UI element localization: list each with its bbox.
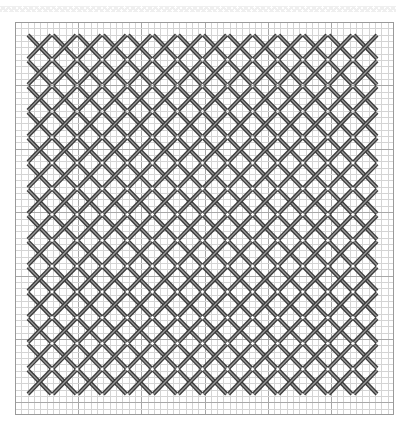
cross-stitch-icon <box>254 164 277 188</box>
cross-stitch-icon <box>354 267 377 291</box>
cross-stitch-icon <box>329 267 352 291</box>
cross-stitch-icon <box>304 61 327 85</box>
cross-stitch-icon <box>354 319 377 343</box>
cross-stitch-icon <box>128 293 151 317</box>
cross-stitch-icon <box>329 293 352 317</box>
cross-stitch-icon <box>229 61 252 85</box>
cross-stitch-icon <box>229 35 252 59</box>
cross-stitch-icon <box>153 164 176 188</box>
cross-stitch-icon <box>304 267 327 291</box>
cross-stitch-icon <box>229 138 252 162</box>
cross-stitch-icon <box>229 112 252 136</box>
cross-stitch-icon <box>329 138 352 162</box>
cross-stitch-icon <box>304 138 327 162</box>
cross-stitch-icon <box>128 61 151 85</box>
cross-stitch-icon <box>128 112 151 136</box>
cross-stitch-icon <box>304 35 327 59</box>
cross-stitch-icon <box>254 61 277 85</box>
cross-stitch-icon <box>329 35 352 59</box>
cross-stitch-icon <box>153 35 176 59</box>
stitches <box>28 35 377 394</box>
cross-stitch-icon <box>229 164 252 188</box>
cross-stitch-icon <box>153 319 176 343</box>
cross-stitch-icon <box>229 319 252 343</box>
cross-stitch-icon <box>279 164 302 188</box>
cross-stitch-icon <box>279 35 302 59</box>
cross-stitch-icon <box>329 319 352 343</box>
cross-stitch-icon <box>354 138 377 162</box>
cross-stitch-icon <box>304 293 327 317</box>
cross-stitch-icon <box>254 138 277 162</box>
torn-paper-edge <box>0 6 396 12</box>
cross-stitch-icon <box>279 61 302 85</box>
cross-stitch-icon <box>304 319 327 343</box>
cross-stitch-icon <box>153 61 176 85</box>
cross-stitch-icon <box>279 112 302 136</box>
cross-stitch-icon <box>254 112 277 136</box>
cross-stitch-icon <box>279 293 302 317</box>
cross-stitch-icon <box>128 164 151 188</box>
cross-stitch-icon <box>279 138 302 162</box>
cross-stitch-icon <box>329 61 352 85</box>
cross-stitch-icon <box>128 35 151 59</box>
cross-stitch-icon <box>153 138 176 162</box>
cross-stitch-icon <box>279 319 302 343</box>
cross-stitch-icon <box>254 293 277 317</box>
cross-stitch-icon <box>329 112 352 136</box>
cross-stitch-icon <box>128 267 151 291</box>
cross-stitch-icon <box>304 164 327 188</box>
cross-stitch-icon <box>254 35 277 59</box>
cross-stitch-icon <box>354 35 377 59</box>
cross-stitch-icon <box>229 293 252 317</box>
cross-stitch-icon <box>354 293 377 317</box>
cross-stitch-icon <box>329 164 352 188</box>
cross-stitch-icon <box>153 112 176 136</box>
cross-stitch-icon <box>279 267 302 291</box>
cross-stitch-icon <box>354 164 377 188</box>
cross-stitch-icon <box>128 319 151 343</box>
cross-stitch-icon <box>153 267 176 291</box>
cross-stitch-icon <box>128 138 151 162</box>
stitch-grid-canvas <box>15 22 394 415</box>
cross-stitch-icon <box>153 293 176 317</box>
cross-stitch-icon <box>354 61 377 85</box>
cross-stitch-chart <box>15 22 394 415</box>
cross-stitch-icon <box>254 267 277 291</box>
cross-stitch-icon <box>229 267 252 291</box>
cross-stitch-icon <box>304 112 327 136</box>
cross-stitch-icon <box>254 319 277 343</box>
cross-stitch-icon <box>354 112 377 136</box>
